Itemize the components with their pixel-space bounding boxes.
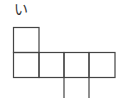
cube-net-diagram [0,0,119,98]
net-square-row-3 [64,53,89,78]
net-square-top [14,28,40,53]
net-square-row-4 [89,53,115,78]
net-square-row-1 [14,53,40,78]
net-square-row-2 [39,53,64,78]
